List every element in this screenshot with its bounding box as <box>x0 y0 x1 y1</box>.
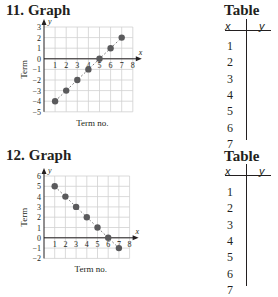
table-row-x-value: 6 <box>227 122 233 134</box>
x-tick-label: 7 <box>120 61 124 70</box>
y-tick-label: −2 <box>32 76 41 85</box>
x-tick-label: 5 <box>98 61 102 70</box>
y-tick-label: 3 <box>37 203 41 212</box>
graph-12: yx123456786543210−1−2TermTerm no. <box>0 145 150 285</box>
table-column-divider <box>246 19 247 140</box>
data-point <box>107 45 113 51</box>
table-row-x-value: 1 <box>227 186 233 198</box>
y-tick-label: −2 <box>32 254 41 263</box>
x-tick-label: 5 <box>96 240 100 249</box>
y-axis-title: Term <box>19 60 29 79</box>
data-point <box>52 98 58 104</box>
data-point <box>119 34 125 40</box>
y-tick-label: 3 <box>37 23 41 32</box>
y-axis-letter: y <box>47 17 52 26</box>
y-tick-label: 2 <box>37 213 41 222</box>
x-axis-arrow-icon <box>133 235 139 240</box>
table-row-x-value: 3 <box>227 219 233 231</box>
x-tick-label: 3 <box>75 61 79 70</box>
x-axis-title: Term no. <box>75 264 107 274</box>
y-tick-label: −1 <box>32 65 41 74</box>
y-axis-arrow-icon <box>42 168 47 174</box>
x-tick-label: 6 <box>109 61 113 70</box>
y-axis-arrow-icon <box>42 19 47 25</box>
y-tick-label: 2 <box>37 34 41 43</box>
x-axis-letter: x <box>135 227 140 236</box>
data-point <box>85 66 91 72</box>
table-header-rule <box>225 175 271 176</box>
x-tick-label: 1 <box>53 240 57 249</box>
x-tick-label: 6 <box>106 240 110 249</box>
y-tick-label: 6 <box>37 172 41 181</box>
table-row-x-value: 2 <box>227 202 233 214</box>
table-column-divider <box>246 164 247 286</box>
table-11-title: Table <box>224 3 259 18</box>
data-point <box>52 183 58 189</box>
y-tick-label: 1 <box>37 224 41 233</box>
data-point <box>84 214 90 220</box>
y-tick-label: −4 <box>32 97 41 106</box>
y-tick-label: 0 <box>37 55 41 64</box>
table-row-x-value: 2 <box>227 56 233 68</box>
data-point <box>96 56 102 62</box>
graph-11: yx123456783210−1−2−3−4−5TermTerm no. <box>0 0 150 140</box>
y-tick-label: −3 <box>32 87 41 96</box>
table-row-x-value: 4 <box>227 235 233 247</box>
table-row-x-value: 6 <box>227 268 233 280</box>
x-tick-label: 1 <box>53 61 57 70</box>
x-tick-label: 4 <box>85 240 89 249</box>
data-point <box>74 77 80 83</box>
y-tick-label: 4 <box>37 193 41 202</box>
y-axis-title: Term <box>19 208 29 227</box>
x-axis-title: Term no. <box>76 118 108 128</box>
y-tick-label: −5 <box>32 108 41 117</box>
x-tick-label: 3 <box>74 240 78 249</box>
data-point <box>116 245 122 251</box>
table-12-title: Table <box>224 149 259 164</box>
table-row-x-value: 1 <box>227 40 233 52</box>
table-row-x-value: 5 <box>227 251 233 263</box>
table-row-x-value: 4 <box>227 89 233 101</box>
y-tick-label: 1 <box>37 44 41 53</box>
table-row-x-value: 5 <box>227 105 233 117</box>
x-tick-label: 8 <box>128 240 132 249</box>
data-point <box>73 204 79 210</box>
table-row-x-value: 7 <box>227 284 233 296</box>
data-point <box>105 235 111 241</box>
y-tick-label: −1 <box>32 244 41 253</box>
x-tick-label: 2 <box>64 61 68 70</box>
data-point <box>63 87 69 93</box>
data-point <box>94 224 100 230</box>
x-tick-label: 2 <box>63 240 67 249</box>
data-point <box>62 193 68 199</box>
x-axis-arrow-icon <box>136 56 142 61</box>
y-tick-label: 0 <box>37 234 41 243</box>
x-axis-letter: x <box>138 48 143 57</box>
table-header-rule <box>225 30 271 31</box>
table-row-x-value: 3 <box>227 73 233 85</box>
y-tick-label: 5 <box>37 182 41 191</box>
x-tick-label: 8 <box>131 61 135 70</box>
y-axis-letter: y <box>47 166 52 175</box>
